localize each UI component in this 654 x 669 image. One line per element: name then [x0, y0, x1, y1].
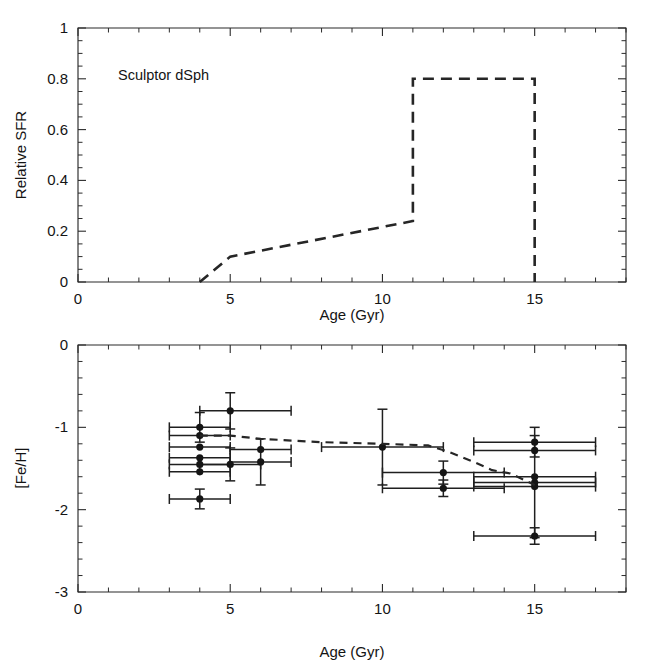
- data-point: [196, 443, 203, 450]
- data-point: [196, 495, 203, 502]
- data-point: [227, 407, 234, 414]
- feh-data-points: [196, 407, 538, 539]
- feh-y-tick-3: 0: [60, 336, 68, 353]
- feh-plot-svg: 051015-3-2-10 Age (Gyr) [Fe/H]: [0, 330, 654, 669]
- data-point: [531, 439, 538, 446]
- sfr-tick-labels: 05101500.20.40.60.81: [47, 19, 543, 307]
- feh-y-tick-1: -2: [55, 501, 68, 518]
- data-point: [257, 458, 264, 465]
- data-point: [531, 447, 538, 454]
- data-point: [196, 454, 203, 461]
- error-bar: [200, 393, 291, 429]
- sfr-y-tick-2: 0.4: [47, 171, 68, 188]
- galaxy-name-label: Sculptor dSph: [118, 67, 209, 83]
- sfr-x-tick-2: 10: [374, 290, 391, 307]
- figure-root: 05101500.20.40.60.81 Sculptor dSph Age (…: [0, 0, 654, 669]
- feh-x-tick-2: 10: [374, 600, 391, 617]
- data-point: [227, 461, 234, 468]
- feh-error-bars: [169, 393, 595, 544]
- age-metallicity-curve: [200, 436, 535, 485]
- sfr-y-tick-5: 1: [60, 19, 68, 36]
- feh-x-tick-0: 0: [74, 600, 82, 617]
- feh-y-tick-0: -3: [55, 583, 68, 600]
- data-point: [196, 424, 203, 431]
- data-point: [196, 468, 203, 475]
- sfr-x-tick-1: 5: [226, 290, 234, 307]
- data-point: [196, 461, 203, 468]
- feh-y-tick-2: -1: [55, 418, 68, 435]
- feh-y-axis-title: [Fe/H]: [12, 448, 29, 489]
- feh-x-tick-1: 5: [226, 600, 234, 617]
- sfr-y-tick-1: 0.2: [47, 222, 68, 239]
- sfr-curve: [200, 79, 535, 282]
- sfr-y-tick-4: 0.8: [47, 70, 68, 87]
- feh-x-axis-title: Age (Gyr): [319, 643, 384, 660]
- data-point: [257, 446, 264, 453]
- sfr-y-tick-0: 0: [60, 273, 68, 290]
- feh-panel: 051015-3-2-10 Age (Gyr) [Fe/H]: [0, 330, 654, 669]
- sfr-x-axis-title: Age (Gyr): [319, 306, 384, 323]
- feh-x-tick-3: 15: [526, 600, 543, 617]
- sfr-y-axis-title: Relative SFR: [12, 111, 29, 200]
- feh-tick-marks: [78, 345, 626, 592]
- feh-tick-labels: 051015-3-2-10: [55, 336, 543, 617]
- data-point: [440, 485, 447, 492]
- sfr-plot-svg: 05101500.20.40.60.81 Sculptor dSph Age (…: [0, 0, 654, 330]
- feh-axes-frame: [78, 345, 626, 592]
- data-point: [440, 469, 447, 476]
- sfr-x-tick-3: 15: [526, 290, 543, 307]
- sfr-x-tick-0: 0: [74, 290, 82, 307]
- data-point: [531, 532, 538, 539]
- sfr-panel: 05101500.20.40.60.81 Sculptor dSph Age (…: [0, 0, 654, 330]
- sfr-y-tick-3: 0.6: [47, 121, 68, 138]
